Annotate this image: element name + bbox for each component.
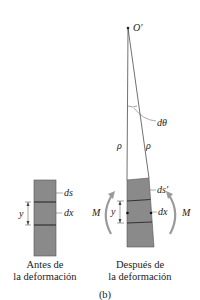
label-rho-left: ρ — [116, 140, 122, 151]
caption-before-line1: Antes de — [26, 259, 63, 270]
label-moment-right: M — [181, 207, 191, 218]
before-deformation-element: ds dx y Antes de la deformación — [13, 180, 77, 282]
label-origin: O′ — [133, 22, 143, 33]
moment-arrow-right — [169, 195, 175, 234]
caption-after-line2: la deformación — [108, 271, 172, 282]
label-y-after: y — [110, 206, 116, 217]
label-rho-right: ρ — [145, 140, 151, 151]
bending-deformation-diagram: ds dx y Antes de la deformación O′ dθ ρ … — [0, 0, 200, 300]
undeformed-block — [34, 180, 56, 256]
figure-label: (b) — [99, 289, 112, 300]
label-moment-left: M — [91, 207, 101, 218]
label-dx: dx — [64, 207, 74, 218]
radius-right — [128, 28, 149, 178]
after-deformation-element: O′ dθ ρ ρ ds′ dx y M M Después de la def… — [91, 22, 191, 282]
label-ds: ds — [64, 187, 73, 198]
caption-after-line1: Después de — [116, 259, 164, 270]
radius-left — [127, 28, 128, 180]
caption-before-line2: la deformación — [13, 271, 77, 282]
label-dtheta: dθ — [157, 117, 167, 128]
center-of-curvature — [127, 27, 130, 30]
label-y-before: y — [18, 208, 24, 219]
label-dx-after: dx — [158, 206, 168, 217]
